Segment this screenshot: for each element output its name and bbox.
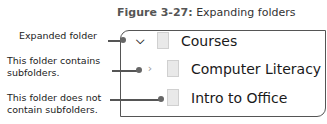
figure-caption: Figure 3-27: Expanding folders (117, 6, 295, 19)
callout-contains-subfolders: This folder contains subfolders. (7, 55, 100, 79)
tree-item-label: Courses (181, 33, 237, 49)
leader-dot (136, 67, 142, 73)
leader-line (110, 99, 162, 101)
folder-icon (157, 32, 169, 49)
tree-item-label: Computer Literacy (191, 61, 321, 77)
callout-no-subfolders: This folder does not contain subfolders. (7, 92, 101, 116)
figure-title: Expanding folders (196, 6, 295, 19)
tree-item-label: Intro to Office (191, 90, 287, 106)
figure-number: Figure 3-27: (117, 6, 193, 19)
callout-text: Expanded folder (19, 30, 97, 41)
callout-text: This folder contains (7, 55, 100, 67)
chevron-right-icon[interactable]: › (143, 62, 157, 75)
callout-text: contain subfolders. (7, 104, 101, 116)
folder-icon (167, 60, 179, 77)
tree-item-intro-to-office[interactable]: Intro to Office (167, 89, 287, 106)
chevron-down-icon[interactable]: ⌵ (133, 34, 147, 47)
tree-item-courses[interactable]: ⌵ Courses (133, 32, 237, 49)
callout-text: subfolders. (7, 67, 100, 79)
folder-icon (167, 89, 179, 106)
callout-text: This folder does not (7, 92, 101, 104)
leader-dot (120, 37, 126, 43)
callout-expanded-folder: Expanded folder (19, 30, 97, 42)
leader-dot (158, 96, 164, 102)
tree-item-computer-literacy[interactable]: › Computer Literacy (143, 60, 321, 77)
